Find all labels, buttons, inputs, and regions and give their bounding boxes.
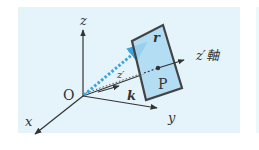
coordinate-diagram: z x y O r k P z′ z′軸 [0, 0, 259, 150]
origin-label: O [63, 87, 74, 103]
z-label: z [79, 13, 87, 28]
y-label: y [167, 110, 176, 125]
z-prime-small-label: z′ [116, 69, 125, 80]
point-p-label: P [158, 76, 167, 92]
x-label: x [25, 114, 33, 129]
k-label: k [127, 88, 136, 103]
x-axis [35, 96, 83, 134]
r-label: r [153, 30, 161, 45]
z-prime-axis-label: z′軸 [195, 48, 221, 63]
